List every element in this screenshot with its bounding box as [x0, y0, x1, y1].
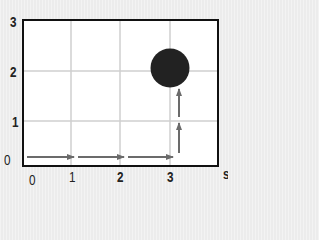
grid-diagram: 3 2 1 0 0 1 2 3 s [0, 0, 228, 191]
x-tick-0: 0 [29, 172, 36, 187]
x-tick-3: 3 [167, 169, 174, 184]
plot-canvas [0, 0, 228, 191]
y-tick-0: 0 [4, 152, 11, 167]
x-tick-2: 2 [117, 169, 124, 184]
y-tick-3: 3 [10, 14, 17, 29]
target-dot [151, 49, 190, 88]
y-tick-2: 2 [10, 64, 17, 79]
y-tick-1: 1 [12, 114, 19, 129]
x-tick-1: 1 [69, 169, 76, 184]
x-axis-unit: s [223, 166, 228, 181]
